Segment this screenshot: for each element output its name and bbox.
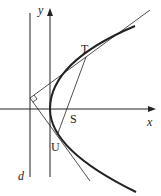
tangent-at-T xyxy=(30,10,150,98)
y-axis-arrow-icon xyxy=(47,8,53,16)
point-T-label: T xyxy=(81,43,88,55)
tangent-at-U xyxy=(30,98,90,181)
y-axis-label: y xyxy=(38,4,43,16)
parabola-diagram xyxy=(0,0,161,196)
directrix-label: d xyxy=(18,170,24,182)
point-U-label: U xyxy=(51,141,60,153)
right-angle-marker xyxy=(33,95,37,102)
point-S-label: S xyxy=(70,113,77,125)
x-axis-arrow-icon xyxy=(148,106,156,112)
x-axis-label: x xyxy=(147,116,152,128)
